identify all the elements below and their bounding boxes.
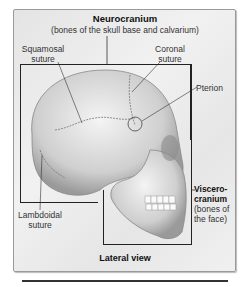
neurocranium-box-bottom [20, 202, 98, 203]
divider [22, 280, 228, 282]
neurocranium-box [20, 64, 192, 155]
neurocranium-box-left [20, 154, 21, 202]
neurocranium-box-right [190, 64, 191, 140]
caption: Lateral view [60, 253, 190, 263]
viscerocranium-box-left [103, 190, 104, 244]
viscerocranium-box-right [103, 143, 192, 245]
